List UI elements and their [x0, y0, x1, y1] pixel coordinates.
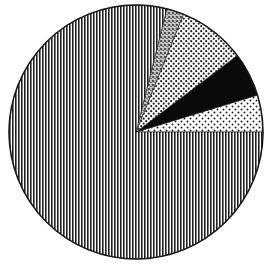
pie-chart	[0, 0, 270, 268]
pie-slices	[9, 5, 263, 259]
